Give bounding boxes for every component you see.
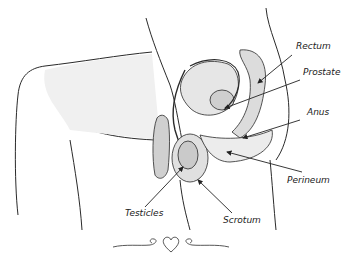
arrow-perineum: [227, 152, 302, 172]
label-perineum: Perineum: [287, 175, 330, 185]
heart-icon: [163, 237, 178, 252]
label-rectum: Rectum: [296, 41, 331, 51]
arrow-scrotum: [198, 180, 232, 213]
organs: [153, 50, 272, 182]
anatomy-illustration: [0, 0, 341, 257]
label-prostate: Prostate: [303, 67, 340, 77]
label-testicles: Testicles: [125, 208, 163, 218]
label-anus: Anus: [307, 107, 329, 117]
label-scrotum: Scrotum: [223, 215, 261, 225]
heart-flourish-ornament: [113, 237, 229, 252]
thigh-shading: [44, 54, 160, 140]
